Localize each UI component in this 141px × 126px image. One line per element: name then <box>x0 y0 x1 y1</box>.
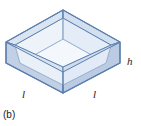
figure-container: l l h (b) <box>0 0 141 126</box>
dimension-label-length-right: l <box>93 89 96 100</box>
figure-caption: (b) <box>3 110 15 120</box>
dimension-label-height: h <box>127 56 133 67</box>
dimension-label-length-left: l <box>22 89 25 100</box>
open-box-diagram <box>0 0 141 126</box>
